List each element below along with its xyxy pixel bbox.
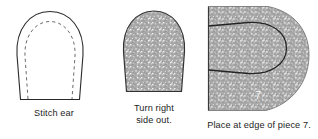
instruction-sheet: Stitch ear xyxy=(0,0,318,139)
panel-stitch-ear: Stitch ear xyxy=(0,0,108,139)
ear-shaded-path xyxy=(123,11,184,92)
caption-turn-right: Turn right side out. xyxy=(108,103,200,126)
ear-outline-with-stitch-line-figure xyxy=(0,0,108,105)
panel-turn-right: Turn right side out. xyxy=(108,0,200,139)
stitch-dashed-line xyxy=(25,22,75,100)
piece-number-label: 7 xyxy=(255,89,261,101)
piece-seven-with-ear-placement-figure: 7 xyxy=(200,0,318,118)
ear-shaded-figure xyxy=(108,0,200,100)
caption-place-edge: Place at edge of piece 7. xyxy=(200,120,318,132)
panel-place-edge: 7 Place at edge of piece 7. xyxy=(200,0,318,139)
caption-stitch-ear: Stitch ear xyxy=(0,108,108,120)
